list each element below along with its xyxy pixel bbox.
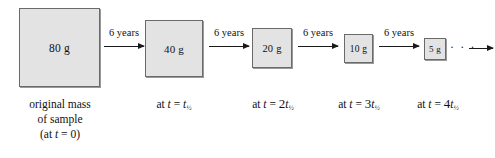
mass-box-4-label: 10 g	[350, 44, 367, 54]
caption-t-half-prefix: at	[156, 98, 167, 110]
mass-box-5: 5 g	[424, 38, 446, 60]
mass-box-1: 80 g	[19, 8, 100, 87]
decay-arrow-3	[298, 46, 338, 47]
caption-2t-half-prefix: at	[252, 98, 263, 110]
decay-arrow-continuation	[469, 48, 493, 49]
half-life-decay-diagram: 80 g 6 years 40 g 6 years 20 g 6 years 1…	[0, 0, 495, 158]
mass-box-3: 20 g	[252, 28, 292, 68]
mass-box-2-label: 40 g	[164, 43, 184, 55]
decay-arrow-2	[209, 46, 249, 47]
decay-arrow-4	[379, 46, 419, 47]
mass-box-2: 40 g	[145, 20, 203, 77]
decay-arrow-1	[104, 46, 144, 47]
caption-original-mass-line2: of sample	[6, 112, 114, 127]
mass-box-5-label: 5 g	[429, 44, 441, 54]
caption-original-mass-line3-suffix: = 0)	[58, 128, 80, 140]
caption-original-mass-line3: (at t = 0)	[6, 127, 114, 142]
caption-3t-half-eq: =	[353, 98, 365, 110]
arrow-label-2: 6 years	[209, 27, 249, 38]
arrow-label-4: 6 years	[379, 27, 419, 38]
caption-4t-half-prefix: at	[417, 98, 428, 110]
caption-t-half-eq: =	[171, 98, 183, 110]
arrow-label-1: 6 years	[104, 27, 144, 38]
caption-t-half-subscript: ½	[186, 104, 191, 112]
caption-4t-half: at t = 4t½	[405, 97, 471, 116]
caption-3t-half: at t = 3t½	[326, 97, 392, 116]
caption-2t-half-subscript: ½	[289, 104, 294, 112]
mass-box-3-label: 20 g	[262, 43, 281, 54]
caption-3t-half-subscript: ½	[375, 104, 380, 112]
caption-original-mass-line3-prefix: (at	[40, 128, 55, 140]
caption-4t-half-eq: =	[432, 98, 444, 110]
caption-t-half: at t = t½	[141, 97, 207, 116]
mass-box-4: 10 g	[344, 34, 373, 63]
caption-2t-half-eq: =	[267, 98, 279, 110]
caption-original-mass-line1: original mass	[6, 97, 114, 112]
arrow-label-3: 6 years	[298, 27, 338, 38]
caption-original-mass: original mass of sample (at t = 0)	[6, 97, 114, 142]
mass-box-1-label: 80 g	[49, 42, 70, 54]
caption-3t-half-prefix: at	[338, 98, 349, 110]
caption-4t-half-subscript: ½	[454, 104, 459, 112]
caption-2t-half: at t = 2t½	[240, 97, 306, 116]
